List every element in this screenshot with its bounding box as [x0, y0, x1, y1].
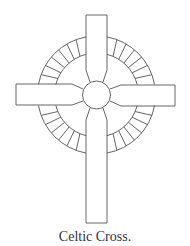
center-circle [83, 81, 111, 109]
figure-caption: Celtic Cross. [0, 229, 190, 245]
cross-shape [16, 15, 175, 223]
celtic-cross-diagram [0, 0, 190, 226]
ring-segments [38, 37, 154, 153]
